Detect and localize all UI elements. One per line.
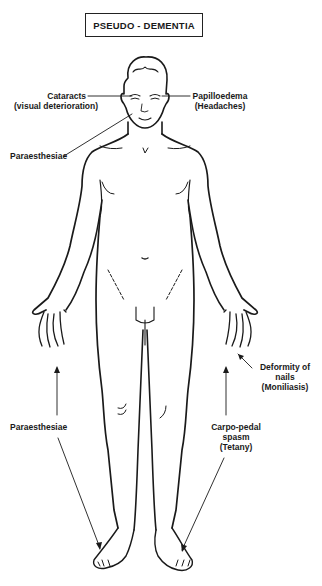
chest-details <box>100 146 190 300</box>
arm-inner-outline <box>66 200 224 310</box>
arrow-hand-left-icon <box>54 366 60 373</box>
genital-outline <box>136 307 154 345</box>
human-figure-illustration <box>0 0 322 586</box>
legs-inner-outline <box>134 330 156 530</box>
knee-details <box>118 404 166 418</box>
arrow-hand-right-icon <box>223 366 229 373</box>
leader-carpo-pedal-foot <box>182 458 224 550</box>
arrow-foot-left-icon <box>96 542 102 550</box>
feet-outline <box>94 528 193 570</box>
leader-paraesthesiae-face <box>64 114 132 156</box>
leader-paraesthesiae-foot <box>58 438 100 548</box>
head-outline <box>121 57 169 128</box>
leader-lines <box>57 96 252 550</box>
